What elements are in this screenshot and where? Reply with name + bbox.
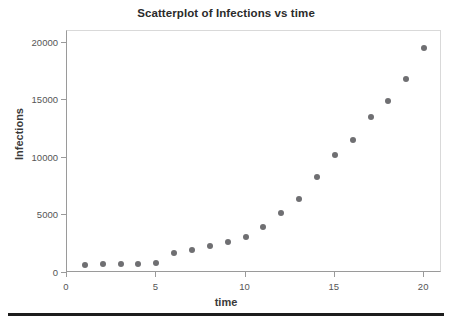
data-point: [82, 262, 88, 268]
data-point: [385, 98, 391, 104]
y-axis-tick-label: 0: [6, 267, 58, 278]
data-point: [118, 261, 124, 267]
data-point: [260, 224, 266, 230]
data-point: [278, 210, 284, 216]
bottom-divider-rule: [8, 313, 444, 316]
data-point: [100, 261, 106, 267]
data-point: [243, 234, 249, 240]
scatterplot-figure: Scatterplot of Infections vs time 050001…: [0, 0, 452, 327]
x-axis-tick-label: 15: [314, 281, 354, 292]
data-point: [171, 250, 177, 256]
y-axis-label: Infections: [13, 74, 25, 194]
data-point: [368, 114, 374, 120]
data-point: [189, 247, 195, 253]
x-axis-tick-label: 0: [46, 281, 86, 292]
data-point: [207, 243, 213, 249]
x-axis-tick: [334, 272, 335, 277]
data-point: [403, 76, 409, 82]
x-axis-tick: [245, 272, 246, 277]
x-axis-tick: [423, 272, 424, 277]
data-point: [350, 137, 356, 143]
y-axis-tick-label: 20000: [6, 36, 58, 47]
y-axis-tick: [61, 214, 66, 215]
y-axis-tick: [61, 99, 66, 100]
plot-area: [67, 31, 440, 271]
x-axis-label: time: [0, 296, 452, 308]
x-axis-tick-label: 5: [135, 281, 175, 292]
chart-title: Scatterplot of Infections vs time: [0, 7, 452, 19]
y-axis-tick: [61, 157, 66, 158]
x-axis-tick-label: 10: [225, 281, 265, 292]
data-point: [314, 174, 320, 180]
y-axis-tick: [61, 42, 66, 43]
x-axis-tick-label: 20: [403, 281, 443, 292]
x-axis-tick: [155, 272, 156, 277]
x-axis-tick: [66, 272, 67, 277]
data-point: [296, 196, 302, 202]
plot-frame: [66, 30, 441, 272]
y-axis-tick-label: 5000: [6, 209, 58, 220]
data-point: [153, 260, 159, 266]
data-point: [421, 45, 427, 51]
data-point: [332, 152, 338, 158]
data-point: [225, 239, 231, 245]
data-point: [135, 261, 141, 267]
